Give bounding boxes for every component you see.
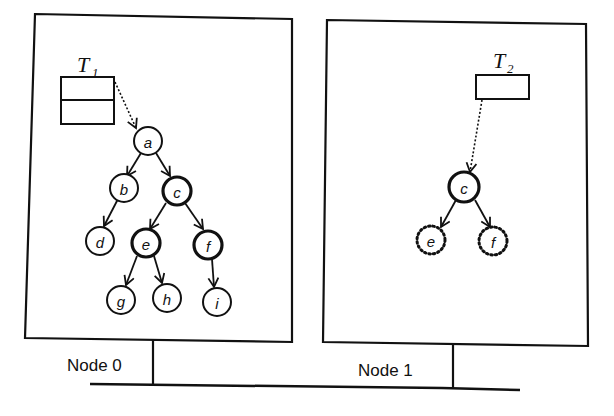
svg-text:a: a	[144, 134, 152, 151]
svg-text:b: b	[120, 181, 128, 198]
remote-node-e: e	[417, 226, 445, 254]
svg-text:e: e	[142, 236, 150, 253]
svg-text:e: e	[427, 233, 435, 250]
t1-root-pointer	[115, 82, 136, 128]
tree-node0-edges	[104, 153, 214, 287]
remote-node-f: f	[479, 227, 507, 255]
svg-text:d: d	[96, 234, 105, 251]
tree-node-c: c	[163, 177, 191, 205]
svg-text:c: c	[460, 180, 468, 197]
table-t1-name: T	[77, 52, 91, 77]
diagram-canvas: Node 0 Node 1 T 1 T 2 a b c d e f g h i …	[0, 0, 614, 416]
table-t2: T 2	[476, 48, 529, 99]
tree-node1-edges	[441, 200, 490, 227]
table-t1: T 1	[61, 52, 114, 124]
tree-node-i: i	[203, 288, 231, 316]
node-1-label: Node 1	[358, 361, 413, 380]
remote-node-c: c	[449, 172, 479, 202]
table-t2-name: T	[493, 48, 507, 73]
svg-text:g: g	[117, 293, 126, 310]
tree-node-e: e	[132, 229, 160, 257]
tree-node-f: f	[194, 231, 222, 259]
tree-node-g: g	[107, 286, 135, 314]
t2-root-pointer	[470, 100, 482, 172]
tree-node-b: b	[110, 174, 138, 202]
node-0-label: Node 0	[67, 356, 122, 375]
svg-text:c: c	[173, 184, 181, 201]
svg-text:h: h	[163, 291, 171, 308]
table-t2-sub: 2	[507, 61, 514, 76]
tree-node-h: h	[153, 284, 181, 312]
tree-node-a: a	[134, 127, 162, 155]
tree-node-d: d	[86, 227, 114, 255]
